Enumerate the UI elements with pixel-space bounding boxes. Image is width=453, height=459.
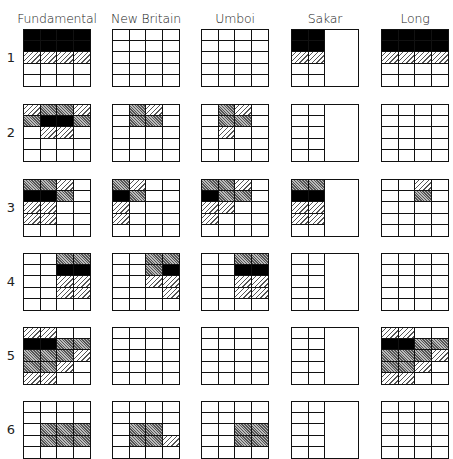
grid-cell (202, 447, 219, 458)
grid-cell (57, 150, 74, 161)
grid-cell (399, 202, 416, 213)
grid-cell (57, 447, 74, 458)
grid-cell (432, 436, 449, 447)
grid-fundamental-6 (23, 401, 91, 459)
grid-cell (113, 362, 130, 373)
grid-cell (432, 339, 449, 350)
grid-cell (415, 328, 432, 339)
grid-cell (113, 30, 130, 41)
grid-cell (163, 373, 180, 384)
grid-cell (74, 436, 91, 447)
grid-new-britain-2 (112, 104, 180, 162)
grid-cell (382, 328, 399, 339)
grid-cell (146, 447, 163, 458)
grid-cell (252, 116, 269, 127)
grid-cell (399, 339, 416, 350)
grid-cell (202, 75, 219, 86)
grid-cell (292, 328, 309, 339)
grid-cell (399, 139, 416, 150)
grid-cell (399, 328, 416, 339)
row-label-3: 3 (4, 200, 18, 215)
grid-cell (57, 265, 74, 276)
grid-cell (292, 299, 309, 310)
grid-cell (74, 150, 91, 161)
grid-cell (57, 288, 74, 299)
grid-cell (219, 139, 236, 150)
grid-cell (382, 362, 399, 373)
grid-cell (130, 52, 147, 63)
grid-cell (252, 225, 269, 236)
grid-cell (202, 41, 219, 52)
grid-cell (252, 52, 269, 63)
grid-cell (309, 299, 326, 310)
grid-sakar-6 (291, 401, 359, 459)
grid-cell (309, 447, 326, 458)
grid-cell (292, 75, 309, 86)
grid-cell (163, 64, 180, 75)
grid-cell (74, 447, 91, 458)
grid-cell (41, 350, 58, 361)
grid-cell (41, 402, 58, 413)
row-label-5: 5 (4, 348, 18, 363)
grid-cell (74, 225, 91, 236)
grid-cell (113, 64, 130, 75)
grid-cell (74, 339, 91, 350)
grid-cell (309, 362, 326, 373)
grid-cell (163, 265, 180, 276)
grid-cell (57, 127, 74, 138)
grid-cell (399, 424, 416, 435)
grid-cell (252, 30, 269, 41)
grid-cell (415, 116, 432, 127)
grid-cell (74, 254, 91, 265)
grid-cell (235, 424, 252, 435)
grid-cell (415, 150, 432, 161)
grid-cell (415, 214, 432, 225)
grid-cell (309, 116, 326, 127)
grid-cell (24, 180, 41, 191)
grid-cell (41, 191, 58, 202)
sakar-empty-block (325, 30, 358, 86)
grid-cell (309, 191, 326, 202)
grid-cell (202, 254, 219, 265)
grid-cell (74, 191, 91, 202)
grid-cell (57, 362, 74, 373)
grid-cell (292, 265, 309, 276)
grid-cell (202, 225, 219, 236)
grid-cell (113, 180, 130, 191)
grid-cell (382, 52, 399, 63)
grid-cell (432, 424, 449, 435)
grid-cell (163, 339, 180, 350)
grid-umboi-5 (201, 327, 269, 385)
grid-cell (24, 52, 41, 63)
grid-cell (113, 75, 130, 86)
grid-cell (432, 202, 449, 213)
grid-cell (219, 424, 236, 435)
grid-cell (399, 191, 416, 202)
grid-cell (432, 191, 449, 202)
grid-cell (382, 75, 399, 86)
grid-cell (113, 350, 130, 361)
grid-cell (309, 64, 326, 75)
grid-cell (146, 299, 163, 310)
grid-cell (399, 288, 416, 299)
grid-cell (252, 191, 269, 202)
grid-umboi-1 (201, 29, 269, 87)
grid-cell (252, 41, 269, 52)
grid-cell (113, 254, 130, 265)
grid-cell (309, 402, 326, 413)
grid-cell (292, 413, 309, 424)
grid-cell (252, 402, 269, 413)
grid-cell (146, 288, 163, 299)
grid-cell (163, 225, 180, 236)
grid-cell (24, 339, 41, 350)
grid-cell (309, 436, 326, 447)
grid-cell (292, 214, 309, 225)
grid-cell (432, 328, 449, 339)
grid-cell (292, 180, 309, 191)
grid-cell (382, 30, 399, 41)
grid-cell (146, 52, 163, 63)
grid-cell (74, 139, 91, 150)
grid-cell (252, 64, 269, 75)
grid-cell (415, 225, 432, 236)
grid-cell (235, 254, 252, 265)
